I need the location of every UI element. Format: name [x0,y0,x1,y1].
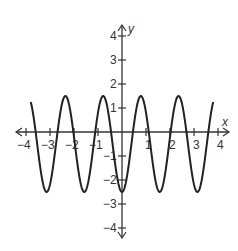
y-tick-label: 4 [110,29,117,43]
y-tick-label: 3 [110,53,117,67]
x-tick-label: −2 [65,138,79,152]
x-tick-label: −3 [41,138,55,152]
y-tick-label: −2 [103,173,117,187]
y-tick-label: 1 [110,101,117,115]
x-axis-label: x [221,115,229,129]
y-axis-label: y [127,22,135,36]
x-tick-label: −4 [17,138,31,152]
y-tick-label: −4 [103,221,117,235]
x-tick-label: 4 [217,138,224,152]
y-tick-label: 2 [110,77,117,91]
x-tick-label: 3 [193,138,200,152]
y-tick-label: −3 [103,197,117,211]
chart: x y −4−3−2−11234 4321−1−2−3−4 [0,0,238,251]
x-tick-label: −1 [89,138,103,152]
